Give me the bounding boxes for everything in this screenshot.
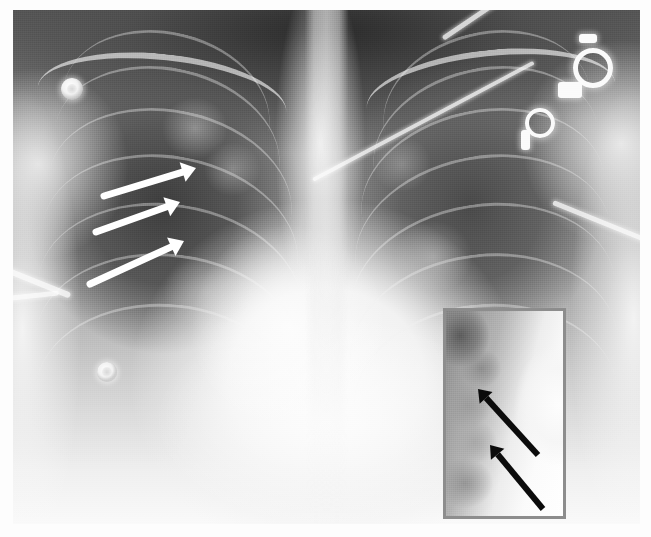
magnified-detail-panel: [443, 308, 566, 519]
radiograph-figure: [0, 0, 651, 537]
figure-caption: [0, 0, 1, 1]
inset-film-grain: [446, 311, 563, 516]
